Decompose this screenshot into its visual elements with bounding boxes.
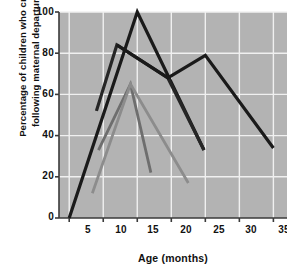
x-tick-label-10: 10 — [109, 224, 133, 235]
x-tick-label-25: 25 — [207, 224, 231, 235]
x-tick-label-20: 20 — [174, 224, 198, 235]
x-tick-label-5: 5 — [76, 224, 100, 235]
x-tick-label-30: 30 — [239, 224, 263, 235]
x-axis-label: Age (months) — [59, 252, 287, 264]
x-tick-label-35: 35 — [272, 224, 287, 235]
x-tick-label-15: 15 — [141, 224, 165, 235]
chart-figure: Percentage of children who cried followi… — [0, 0, 287, 274]
